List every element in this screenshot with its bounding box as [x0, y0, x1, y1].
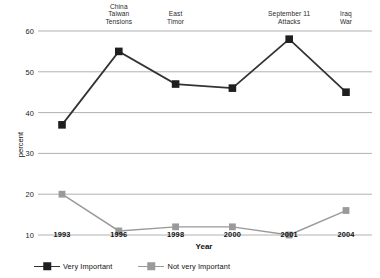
x-axis-tick-label: 1998: [167, 230, 184, 239]
event-annotation: East Timor: [167, 10, 184, 25]
data-point-marker[interactable]: [59, 191, 66, 198]
data-point-marker[interactable]: [115, 48, 123, 56]
series-line-very-important: [62, 39, 346, 125]
chart-legend: Very Important Not very Important: [34, 258, 334, 274]
legend-marker-square-icon: [34, 262, 60, 271]
data-point-marker[interactable]: [342, 88, 350, 96]
event-annotation: Iraq War: [340, 10, 352, 25]
x-axis-tick-label: 2001: [281, 230, 298, 239]
x-axis-tick-label: 2000: [224, 230, 241, 239]
series-line-not-very-important: [62, 194, 346, 235]
data-point-marker[interactable]: [229, 84, 237, 92]
line-chart: percent 102030405060 China Taiwan Tensio…: [0, 0, 380, 278]
data-point-marker[interactable]: [172, 80, 180, 88]
legend-label: Very Important: [63, 262, 112, 271]
data-point-marker[interactable]: [343, 207, 350, 214]
x-axis-tick-label: 2004: [337, 230, 354, 239]
event-annotation: September 11 Attacks: [268, 10, 310, 25]
x-axis-title: Year: [196, 242, 213, 251]
x-axis-tick-label: 1996: [110, 230, 127, 239]
data-point-marker[interactable]: [58, 121, 66, 129]
event-annotation: China Taiwan Tensions: [105, 3, 132, 26]
legend-marker-square-icon: [138, 262, 164, 271]
legend-item-not-very-important[interactable]: Not very Important: [138, 262, 230, 271]
x-axis-tick-label: 1993: [53, 230, 70, 239]
legend-item-very-important[interactable]: Very Important: [34, 262, 112, 271]
data-point-marker[interactable]: [285, 35, 293, 43]
legend-label: Not very Important: [167, 262, 230, 271]
